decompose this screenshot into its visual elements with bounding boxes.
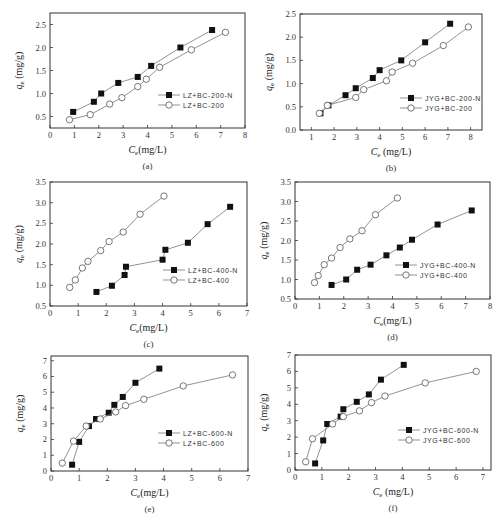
- data-point: [315, 272, 321, 278]
- data-point: [123, 264, 129, 270]
- y-tick-label: 0: [287, 465, 291, 475]
- x-tick-label: 0: [293, 301, 297, 311]
- legend-marker-square-icon: [166, 92, 172, 98]
- x-tick-label: 1: [317, 301, 321, 311]
- y-tick-label: 0.5: [280, 294, 291, 304]
- legend: JYG+BC-200-NJYG+BC-200: [400, 95, 481, 112]
- series-line: [72, 369, 159, 465]
- data-point: [70, 109, 76, 115]
- legend-label: LZ+BC-400: [188, 277, 229, 284]
- x-tick-label: 7: [464, 301, 468, 311]
- data-point: [370, 75, 376, 81]
- data-point: [109, 283, 115, 289]
- data-point: [72, 277, 78, 283]
- legend-marker-circle-icon: [403, 272, 409, 278]
- x-tick-label: 7: [219, 130, 223, 140]
- data-point: [156, 64, 162, 70]
- legend-label: LZ+BC-600: [183, 440, 224, 447]
- data-point: [119, 94, 125, 100]
- legend-label: JYG+BC-400: [420, 272, 467, 279]
- series-line: [62, 375, 232, 463]
- y-tick-label: 1.5: [35, 260, 46, 270]
- data-point: [401, 362, 407, 368]
- x-axis-label: Ce(mg/L): [373, 315, 411, 328]
- legend-label: LZ+BC-400-N: [188, 267, 238, 274]
- data-point: [328, 255, 334, 261]
- data-point: [227, 204, 233, 210]
- data-point: [303, 459, 309, 465]
- panel-caption: (c): [144, 339, 154, 349]
- data-point: [361, 86, 367, 92]
- data-point: [66, 117, 72, 123]
- panel-caption: (a): [143, 161, 153, 171]
- y-tick-label: 2.5: [35, 218, 46, 228]
- y-tick-label: 2.5: [280, 216, 291, 226]
- x-tick-label: 4: [378, 132, 383, 142]
- legend: LZ+BC-400-NLZ+BC-400: [163, 267, 238, 284]
- x-axis-label: Ce(mg/L): [129, 322, 167, 335]
- y-tick-label: 3: [43, 419, 47, 429]
- y-axis-label: qe (mg/g): [258, 394, 271, 432]
- data-point: [162, 247, 168, 253]
- y-tick-label: 2.0: [35, 43, 46, 53]
- data-point: [177, 45, 183, 51]
- data-point: [356, 408, 362, 414]
- x-tick-label: 2: [97, 130, 101, 140]
- y-tick-label: 1: [43, 450, 47, 460]
- series-line: [306, 371, 477, 461]
- data-point: [354, 267, 360, 273]
- y-tick-label: 6: [287, 366, 291, 376]
- x-tick-label: 7: [245, 308, 249, 318]
- data-point: [435, 222, 441, 228]
- data-point: [422, 380, 428, 386]
- data-point: [161, 193, 167, 199]
- data-point: [382, 393, 388, 399]
- data-point: [120, 394, 126, 400]
- data-point: [69, 462, 75, 468]
- legend-label: JYG+BC-400-N: [420, 262, 476, 269]
- y-tick-label: 3: [287, 416, 291, 426]
- legend: JYG+BC-400-NJYG+BC-400: [395, 262, 476, 279]
- data-point: [372, 212, 378, 218]
- data-point: [309, 436, 315, 442]
- data-point: [343, 92, 349, 98]
- chart-panel-a: 0123456780.51.01.52.02.5Ce(mg/L)qe (mg/g…: [13, 13, 247, 171]
- x-axis-label: Ce(mg/L): [128, 144, 166, 157]
- data-point: [383, 252, 389, 258]
- x-tick-label: 2: [342, 301, 346, 311]
- data-point: [97, 247, 103, 253]
- y-tick-label: 6: [43, 371, 47, 381]
- legend-marker-square-icon: [408, 95, 414, 101]
- y-tick-label: 2: [43, 434, 47, 444]
- data-point: [67, 284, 73, 290]
- data-point: [377, 67, 383, 73]
- y-tick-label: 5: [287, 383, 291, 393]
- y-tick-label: 1.5: [35, 66, 46, 76]
- y-tick-label: 0.5: [285, 102, 296, 112]
- data-point: [122, 272, 128, 278]
- y-axis-label: qe (mg/g): [13, 52, 26, 90]
- x-tick-label: 6: [218, 473, 222, 483]
- data-point: [111, 402, 117, 408]
- legend-label: LZ+BC-200: [183, 102, 224, 109]
- data-point: [93, 289, 99, 295]
- data-point: [83, 423, 89, 429]
- x-tick-label: 3: [355, 132, 359, 142]
- data-point: [160, 257, 166, 263]
- data-point: [107, 101, 113, 107]
- data-point: [321, 261, 327, 267]
- data-point: [354, 399, 360, 405]
- data-point: [353, 85, 359, 91]
- data-point: [378, 377, 384, 383]
- x-tick-label: 0: [49, 473, 53, 483]
- data-point: [320, 437, 326, 443]
- data-point: [465, 24, 471, 30]
- data-point: [366, 391, 372, 397]
- y-tick-label: 2: [287, 432, 291, 442]
- data-point: [343, 277, 349, 283]
- y-tick-label: 3.5: [35, 177, 46, 187]
- data-point: [98, 91, 104, 97]
- data-point: [180, 383, 186, 389]
- y-axis-label: qe (mg/g): [258, 222, 271, 260]
- x-tick-label: 4: [400, 472, 405, 482]
